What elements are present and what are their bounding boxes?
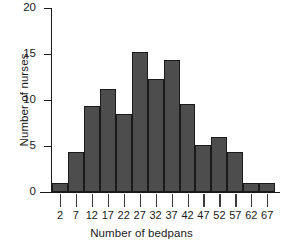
histogram-bar bbox=[116, 114, 132, 192]
y-axis-tick-label: 5 bbox=[16, 140, 36, 152]
x-axis-tick-mark bbox=[219, 194, 220, 207]
histogram-bar bbox=[100, 89, 116, 192]
x-axis-tick-mark bbox=[140, 194, 141, 207]
x-axis-tick-mark bbox=[188, 194, 189, 207]
y-axis-tick-label: 0 bbox=[16, 186, 36, 198]
y-axis-tick-label: 10 bbox=[16, 94, 36, 106]
x-axis-tick-mark bbox=[156, 194, 157, 207]
histogram-bar bbox=[211, 137, 227, 192]
histogram-chart: Number of nurses 05101520 27121722273237… bbox=[0, 0, 283, 245]
histogram-bar bbox=[148, 79, 164, 192]
histogram-bar bbox=[243, 183, 259, 192]
x-axis-tick-mark bbox=[92, 194, 93, 207]
histogram-bar bbox=[180, 104, 196, 192]
y-axis-tick-label: 15 bbox=[16, 48, 36, 60]
plot-area bbox=[52, 8, 280, 192]
x-axis-tick-mark bbox=[235, 194, 236, 207]
x-axis-tick-mark bbox=[108, 194, 109, 207]
x-axis-tick-mark bbox=[60, 194, 61, 207]
histogram-bar bbox=[52, 183, 68, 192]
x-axis-tick-mark bbox=[251, 194, 252, 207]
x-axis-tick-mark bbox=[76, 194, 77, 207]
histogram-bar bbox=[84, 106, 100, 192]
histogram-bar bbox=[132, 52, 148, 192]
x-axis-tick-mark bbox=[124, 194, 125, 207]
x-axis-title: Number of bedpans bbox=[0, 227, 283, 239]
y-axis-tick-labels: 05101520 bbox=[14, 0, 36, 245]
x-axis-tick-mark bbox=[172, 194, 173, 207]
histogram-bar bbox=[164, 60, 180, 192]
x-axis-tick-mark bbox=[267, 194, 268, 207]
histogram-bar bbox=[259, 183, 275, 192]
histogram-bar bbox=[227, 152, 243, 192]
histogram-bar bbox=[195, 145, 211, 192]
x-axis-tick-label: 67 bbox=[255, 210, 279, 221]
x-axis-tick-mark bbox=[203, 194, 204, 207]
y-axis-tick-label: 20 bbox=[16, 2, 36, 14]
histogram-bar bbox=[68, 152, 84, 192]
